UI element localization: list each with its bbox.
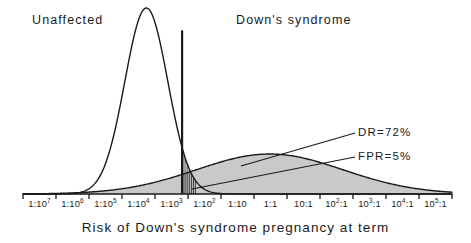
x-axis-tick-labels: 1:1071:1061:1051:1041:1031:1021:101:110:… <box>0 199 471 215</box>
x-axis-tick-label: 1:107 <box>28 199 51 209</box>
x-axis-title: Risk of Down's syndrome pregnancy at ter… <box>0 220 471 235</box>
x-axis-tick-label: 104:1 <box>391 199 414 209</box>
detection-rate-annotation: DR=72% <box>358 126 412 138</box>
downs-syndrome-curve-label: Down's syndrome <box>236 13 351 27</box>
unaffected-curve-label: Unaffected <box>32 13 103 27</box>
x-axis-tick-label: 105:1 <box>424 199 447 209</box>
x-axis-tick-label: 1:106 <box>61 199 84 209</box>
down-syndrome-risk-distribution-figure: Unaffected Down's syndrome DR=72% FPR=5%… <box>0 0 471 243</box>
x-axis-tick-label: 1:102 <box>193 199 216 209</box>
x-axis-tick-label: 1:103 <box>160 199 183 209</box>
false-positive-rate-annotation: FPR=5% <box>358 150 412 162</box>
x-axis-tick-label: 1:10 <box>228 199 247 209</box>
x-axis-tick-label: 102:1 <box>325 199 348 209</box>
x-axis-tick-label: 103:1 <box>358 199 381 209</box>
x-axis-tick-label: 10:1 <box>294 199 313 209</box>
x-axis-tick-label: 1:1 <box>264 199 278 209</box>
x-axis-tick-label: 1:105 <box>94 199 117 209</box>
x-axis-tick-label: 1:104 <box>127 199 150 209</box>
